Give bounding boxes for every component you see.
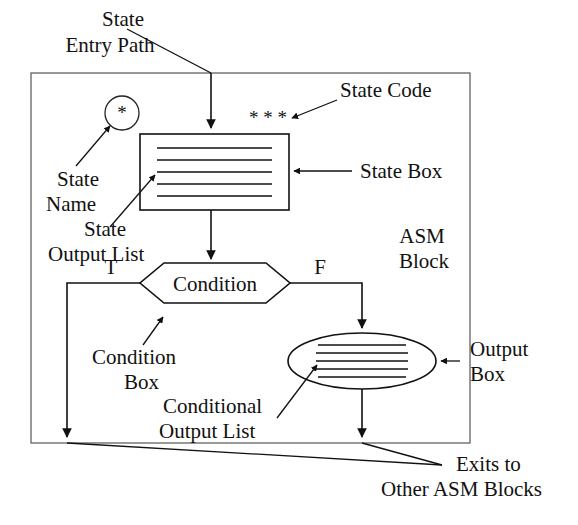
condition-box-leader <box>143 317 163 345</box>
state-name-leader <box>76 126 110 166</box>
conditional-output-list-label-line1: Conditional <box>163 394 262 418</box>
state-code-asterisks: * * * <box>249 107 287 128</box>
output-box-label-line2: Box <box>470 362 506 386</box>
conditional-output-list-label-line2: Output List <box>159 419 255 443</box>
false-branch-path <box>290 283 362 328</box>
asm-block-diagram: * * * * State Entry Path State Code Stat… <box>0 0 578 525</box>
exits-leader-right <box>362 443 442 465</box>
asm-block-label-line1: ASM <box>399 224 445 248</box>
true-branch-label: T <box>105 255 118 279</box>
state-entry-path-label-line2: Entry Path <box>65 33 155 57</box>
state-output-list-label-line1: State <box>84 217 126 241</box>
diagram-canvas: * * * * State Entry Path State Code Stat… <box>0 0 578 525</box>
state-name-asterisk: * <box>117 102 127 123</box>
asm-block-label-line2: Block <box>399 249 450 273</box>
state-name-label-line1: State <box>57 167 99 191</box>
state-name-label-line2: Name <box>46 192 96 216</box>
condition-label: Condition <box>173 272 258 296</box>
exits-leader-left <box>67 443 442 465</box>
state-code-label: State Code <box>340 78 432 102</box>
condition-box-label-line1: Condition <box>92 345 177 369</box>
condition-box-label-line2: Box <box>124 370 160 394</box>
false-branch-label: F <box>314 255 326 279</box>
state-box-label: State Box <box>360 159 443 183</box>
state-entry-path-label-line1: State <box>102 7 144 31</box>
conditional-output-list-leader <box>277 365 317 418</box>
exits-label-line2: Other ASM Blocks <box>381 477 542 501</box>
exits-label-line1: Exits to <box>456 452 521 476</box>
state-code-leader <box>292 100 337 118</box>
output-box-label-line1: Output <box>470 337 529 361</box>
state-output-list-label-line2: Output List <box>48 242 144 266</box>
